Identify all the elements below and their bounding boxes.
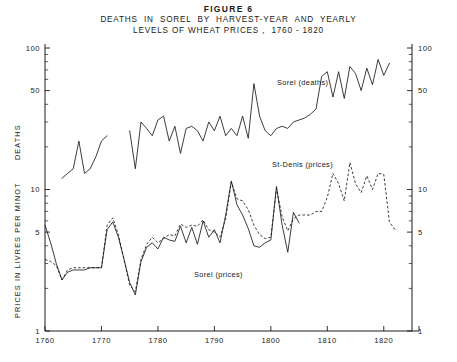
- series-label-deaths: Sorel (deaths): [277, 78, 328, 87]
- series-layer: [45, 59, 395, 294]
- y-tick-label-left-50: 50: [14, 86, 40, 95]
- series-path-sorel-deaths: [62, 136, 107, 179]
- figure-chart: FIGURE 6 DEATHS IN SOREL BY HARVEST-YEAR…: [0, 0, 457, 362]
- x-tick-label-1760: 1760: [25, 336, 65, 345]
- y-tick-label-right-5: 5: [418, 228, 446, 237]
- x-tick-label-1790: 1790: [194, 336, 234, 345]
- y-tick-label-left-10: 10: [14, 185, 40, 194]
- series-path-sorel-prices: [45, 181, 299, 295]
- series-path-sorel-deaths: [130, 59, 390, 168]
- y-tick-label-right-100: 100: [418, 44, 446, 53]
- y-tick-label-right-10: 10: [418, 185, 446, 194]
- x-tick-label-1770: 1770: [81, 336, 121, 345]
- y-tick-label-left-100: 100: [14, 44, 40, 53]
- x-tick-label-1780: 1780: [138, 336, 178, 345]
- series-label-st-denis: St-Denis (prices): [272, 160, 333, 169]
- y-tick-label-left-1: 1: [14, 327, 40, 336]
- x-tick-label-1800: 1800: [251, 336, 291, 345]
- x-tick-label-1820: 1820: [364, 336, 404, 345]
- y-tick-label-right-1: 1: [418, 327, 446, 336]
- series-label-sorel-prices: Sorel (prices): [194, 270, 243, 279]
- y-tick-label-left-5: 5: [14, 228, 40, 237]
- x-tick-label-1810: 1810: [307, 336, 347, 345]
- plot-area: [0, 0, 457, 362]
- y-tick-label-right-50: 50: [418, 86, 446, 95]
